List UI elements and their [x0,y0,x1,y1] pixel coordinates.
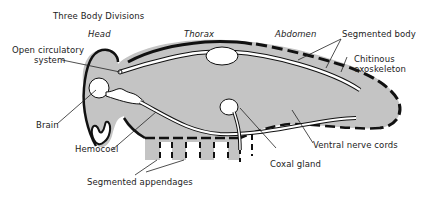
division-abdomen: Abdomen [275,30,316,39]
label-open-circulatory-1: Open circulatory [12,46,84,55]
label-chitinous-1: Chitinous [354,55,395,64]
label-chitinous-2: exoskeleton [354,65,406,74]
division-thorax: Thorax [184,30,214,39]
label-segmented-body: Segmented body [342,30,416,39]
label-ventral-nerve-cords: Ventral nerve cords [313,141,398,150]
diagram-title: Three Body Divisions [53,12,144,21]
division-head: Head [88,30,111,39]
label-open-circulatory-2: system [34,56,65,65]
label-brain: Brain [36,121,59,130]
label-hemocoel: Hemocoel [75,145,118,154]
label-segmented-appendages: Segmented appendages [87,178,193,187]
heart [206,47,238,65]
label-coxal-gland: Coxal gland [270,160,321,169]
